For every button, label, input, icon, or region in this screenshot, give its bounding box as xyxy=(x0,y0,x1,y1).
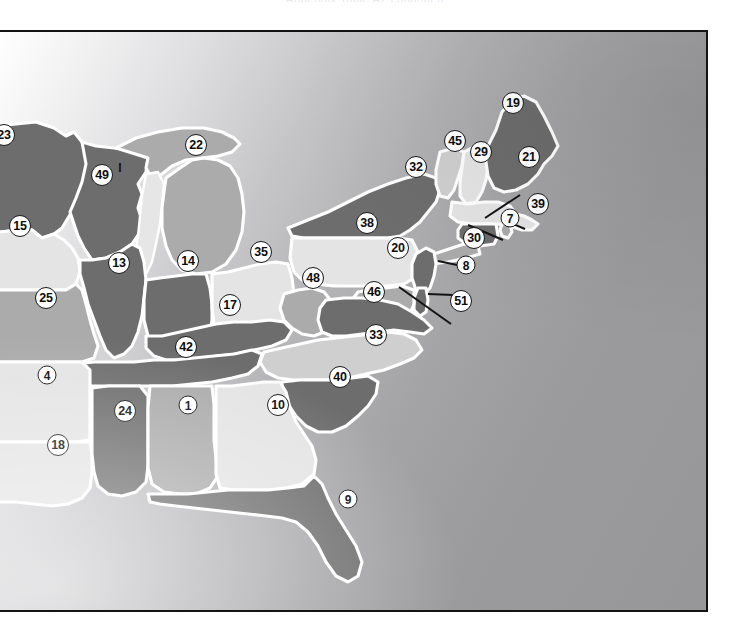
map-label-32[interactable]: 32 xyxy=(405,156,427,178)
map-label-24[interactable]: 24 xyxy=(114,400,136,422)
state-maine xyxy=(486,96,558,192)
map-label-4[interactable]: 4 xyxy=(38,366,57,385)
map-label-1[interactable]: 1 xyxy=(179,396,198,415)
map-label-10[interactable]: 10 xyxy=(267,394,289,416)
map-label-8[interactable]: 8 xyxy=(457,256,476,275)
map-label-45[interactable]: 45 xyxy=(444,130,466,152)
map-label-42[interactable]: 42 xyxy=(175,336,197,358)
map-label-17[interactable]: 17 xyxy=(219,294,241,316)
map-illustration: .st{ stroke:#ffffff; stroke-width:3.1; s… xyxy=(0,32,708,612)
map-label-15[interactable]: 15 xyxy=(9,215,31,237)
map-label-39[interactable]: 39 xyxy=(527,193,549,215)
map-label-19[interactable]: 19 xyxy=(502,92,524,114)
map-label-49[interactable]: 49 xyxy=(91,164,113,186)
map-label-29[interactable]: 29 xyxy=(470,141,492,163)
map-label-14[interactable]: 14 xyxy=(177,250,199,272)
top-caption-clipped: Appendix Table A2 continued xyxy=(0,0,730,2)
map-label-51[interactable]: 51 xyxy=(450,290,472,312)
wisconsin-tick-mark: I xyxy=(118,161,121,175)
map-label-9[interactable]: 9 xyxy=(339,490,358,509)
map-label-40[interactable]: 40 xyxy=(329,366,351,388)
map-plate: .st{ stroke:#ffffff; stroke-width:3.1; s… xyxy=(0,30,708,612)
map-label-18[interactable]: 18 xyxy=(47,434,69,456)
map-label-7[interactable]: 7 xyxy=(501,209,520,228)
page-root: Appendix Table A2 continued .st{ stroke:… xyxy=(0,0,730,637)
map-label-33[interactable]: 33 xyxy=(365,324,387,346)
map-label-46[interactable]: 46 xyxy=(363,281,385,303)
state-michigan xyxy=(162,158,244,274)
state-louisiana xyxy=(0,442,92,506)
map-label-48[interactable]: 48 xyxy=(302,267,324,289)
map-label-20[interactable]: 20 xyxy=(387,237,409,259)
map-label-25[interactable]: 25 xyxy=(35,287,57,309)
state-iowa xyxy=(0,230,80,290)
map-label-38[interactable]: 38 xyxy=(356,212,378,234)
map-label-21[interactable]: 21 xyxy=(518,146,540,168)
map-label-30[interactable]: 30 xyxy=(463,227,485,249)
map-label-13[interactable]: 13 xyxy=(108,252,130,274)
map-label-35[interactable]: 35 xyxy=(250,241,272,263)
map-label-22[interactable]: 22 xyxy=(185,134,207,156)
